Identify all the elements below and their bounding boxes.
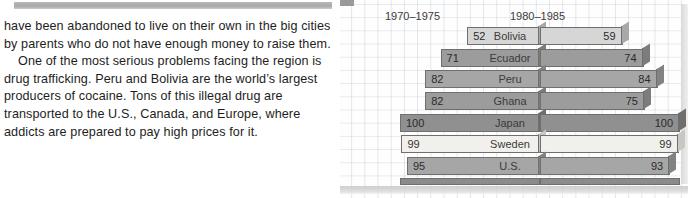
bar-value-label: 99 — [407, 137, 419, 152]
bar-1980-1985-us: 93 — [540, 157, 670, 175]
category-label-ghana: Ghana — [478, 91, 542, 113]
bar-1980-1985-bolivia: 59 — [540, 27, 623, 45]
bar-3d-side-face — [621, 22, 629, 45]
chart-category-labels: BoliviaEcuadorPeruGhanaJapanSwedenU.S. — [478, 26, 542, 178]
article-text-column: have been abandoned to live on their own… — [4, 18, 334, 141]
bar-3d-side-face — [678, 108, 686, 131]
textbook-page-fragment: have been abandoned to live on their own… — [0, 0, 688, 198]
bar-value-label: 59 — [603, 29, 615, 44]
stack-base-1970-1975 — [400, 178, 540, 185]
bar-3d-side-face — [656, 65, 664, 88]
series-label-1980-1985: 1980–1985 — [510, 10, 565, 22]
top-divider-rule — [14, 2, 332, 9]
bar-3d-side-face — [642, 43, 650, 66]
bar-value-label: 74 — [624, 51, 636, 66]
panel-top-marker — [340, 0, 354, 6]
bar-value-label: 100 — [655, 116, 673, 131]
bar-value-label: 99 — [659, 137, 671, 152]
category-label-us: U.S. — [478, 156, 542, 178]
panel-bottom-shadow — [340, 186, 688, 194]
bar-1980-1985-ghana: 75 — [540, 92, 645, 110]
series-label-1970-1975: 1970–1975 — [385, 10, 440, 22]
bar-value-label: 82 — [431, 94, 443, 109]
bar-1980-1985-japan: 100 — [540, 114, 680, 132]
bar-3d-side-face — [668, 152, 676, 175]
bar-3d-side-face — [643, 87, 651, 110]
bar-value-label: 93 — [651, 159, 663, 174]
bar-value-label: 82 — [431, 72, 443, 87]
category-label-peru: Peru — [478, 69, 542, 91]
literacy-comparison-chart: 1970–1975 1980–1985 52597174828482751001… — [340, 0, 688, 198]
category-label-sweden: Sweden — [478, 134, 542, 156]
article-paragraph-1: have been abandoned to live on their own… — [4, 18, 334, 53]
bar-1980-1985-ecuador: 74 — [540, 49, 644, 67]
bar-1980-1985-peru: 84 — [540, 70, 658, 88]
bar-value-label: 71 — [447, 51, 459, 66]
stack-base-1980-1985 — [540, 178, 680, 185]
bar-value-label: 84 — [638, 72, 650, 87]
bar-1980-1985-sweden: 99 — [540, 135, 679, 153]
article-paragraph-2: One of the most serious problems facing … — [4, 53, 334, 141]
bar-value-label: 75 — [626, 94, 638, 109]
category-label-japan: Japan — [478, 113, 542, 135]
category-label-ecuador: Ecuador — [478, 48, 542, 70]
bar-value-label: 95 — [413, 159, 425, 174]
category-label-bolivia: Bolivia — [478, 26, 542, 48]
bar-value-label: 100 — [406, 116, 424, 131]
bar-3d-side-face — [677, 130, 685, 153]
